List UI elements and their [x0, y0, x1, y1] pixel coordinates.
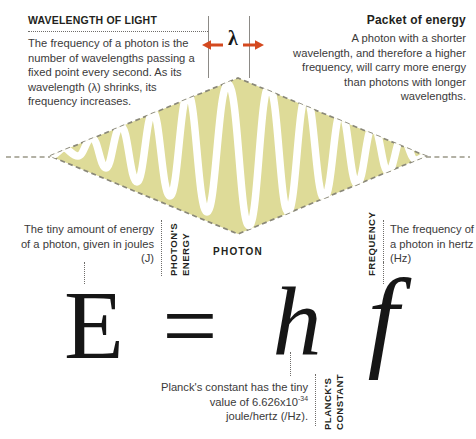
- left-panel-body: The frequency of a photon is the number …: [28, 36, 204, 109]
- right-panel-body: A photon with a shorter wavelength, and …: [290, 31, 466, 104]
- planck-callout-divider: [315, 374, 316, 426]
- arrow-left-icon: [202, 40, 223, 50]
- equation-equals: =: [150, 276, 230, 374]
- planck-callout-label: PLANCK'S CONSTANT: [322, 334, 346, 430]
- right-panel-heading: Packet of energy: [298, 14, 466, 27]
- infographic-canvas: λ WAVELENGTH OF LIGHT The frequency of a…: [0, 0, 476, 439]
- frequency-callout-body: The frequency of a photon in hertz (Hz): [390, 222, 476, 266]
- arrow-right-icon: [243, 40, 264, 50]
- planck-leader-line: [290, 352, 291, 376]
- energy-callout-label: PHOTON'S ENERGY: [168, 198, 192, 276]
- planck-callout-text-pre: Planck's constant has the tiny value of …: [161, 381, 308, 408]
- energy-leader-line: [84, 262, 85, 284]
- frequency-leader-line: [383, 262, 384, 284]
- left-panel-heading: WAVELENGTH OF LIGHT: [28, 14, 214, 27]
- energy-callout-divider: [161, 220, 162, 276]
- planck-callout-text-post: joule/hertz (/Hz).: [226, 410, 308, 422]
- left-panel-divider: [28, 31, 208, 32]
- baseline-axis-ticks: [0, 148, 476, 166]
- planck-exponent: -34: [298, 395, 308, 402]
- lambda-symbol: λ: [222, 28, 244, 48]
- planck-callout-label-wrap: PLANCK'S CONSTANT: [322, 430, 422, 439]
- planck-callout-body: Planck's constant has the tiny value of …: [160, 380, 308, 424]
- photon-caption: PHOTON: [188, 246, 288, 257]
- energy-callout-body: The tiny amount of energy of a photon, g…: [20, 222, 154, 266]
- equation-E: E: [54, 276, 134, 374]
